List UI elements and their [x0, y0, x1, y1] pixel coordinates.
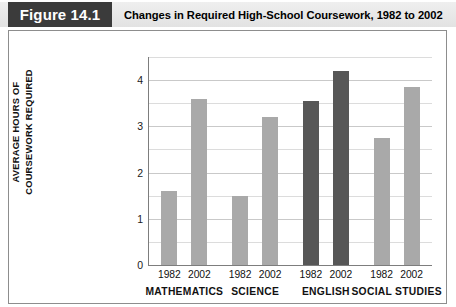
x-axis-year-label: 2002	[329, 269, 352, 280]
chart-frame: AVERAGE HOURS OF COURSEWORK REQUIRED 012…	[8, 30, 447, 304]
figure-header-band: Figure 14.1 Changes in Required High-Sch…	[0, 2, 456, 27]
bar	[262, 117, 278, 265]
figure-number-badge: Figure 14.1	[8, 2, 112, 27]
bar	[161, 191, 177, 265]
figure-container: Figure 14.1 Changes in Required High-Sch…	[0, 0, 456, 307]
figure-title: Changes in Required High-School Coursewo…	[124, 2, 443, 27]
bar	[333, 71, 349, 265]
x-axis-category-label: ENGLISH	[302, 286, 350, 297]
x-axis-line	[148, 265, 432, 266]
x-axis-year-labels: 19822002198220021982200219822002	[149, 269, 432, 283]
x-axis-year-label: 1982	[158, 269, 181, 280]
gridline-minor	[149, 57, 432, 58]
x-axis-year-label: 2002	[259, 269, 282, 280]
bar	[374, 138, 390, 265]
y-axis-tick-label: 1	[121, 213, 143, 225]
x-axis-category-label: MATHEMATICS	[145, 286, 223, 297]
y-axis-title: AVERAGE HOURS OF COURSEWORK REQUIRED	[8, 44, 38, 220]
y-axis-title-line-1: AVERAGE HOURS OF	[10, 82, 23, 183]
bar	[303, 101, 319, 265]
x-axis-year-label: 2002	[188, 269, 211, 280]
y-axis-line	[148, 57, 149, 266]
x-axis-year-label: 1982	[299, 269, 322, 280]
x-axis-category-label: SOCIAL STUDIES	[351, 286, 441, 297]
gridline-major	[149, 80, 432, 81]
x-axis-year-label: 1982	[229, 269, 252, 280]
plot-area	[149, 57, 432, 265]
y-axis-tick-labels: 01234	[117, 57, 143, 265]
y-axis-tick-label: 2	[121, 167, 143, 179]
x-axis-category-labels: MATHEMATICSSCIENCEENGLISHSOCIAL STUDIES	[149, 286, 432, 302]
y-axis-title-line-2: COURSEWORK REQUIRED	[23, 69, 36, 195]
x-axis-year-label: 2002	[400, 269, 423, 280]
bar	[191, 99, 207, 265]
bar	[232, 196, 248, 265]
y-axis-tick-label: 0	[121, 259, 143, 271]
x-axis-year-label: 1982	[370, 269, 393, 280]
x-axis-category-label: SCIENCE	[231, 286, 279, 297]
y-axis-tick-label: 3	[121, 120, 143, 132]
bar	[404, 87, 420, 265]
y-axis-tick-label: 4	[121, 74, 143, 86]
